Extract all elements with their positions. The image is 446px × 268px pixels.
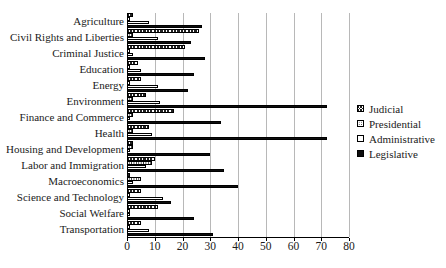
bar-judicial	[127, 29, 199, 32]
bar-presidential	[127, 177, 141, 180]
category-label: Labor and Immigration	[0, 159, 124, 171]
bar-legislative	[127, 105, 327, 108]
bar-administrative	[127, 53, 133, 56]
plot-area	[127, 13, 349, 237]
bar-judicial	[127, 125, 149, 128]
bar-administrative	[127, 213, 130, 216]
gridline	[238, 13, 239, 237]
bar-administrative	[127, 21, 149, 24]
bar-presidential	[127, 113, 133, 116]
bar-presidential	[127, 81, 130, 84]
administrative-swatch-icon	[357, 135, 364, 142]
bar-legislative	[127, 73, 194, 76]
category-label: Environment	[0, 95, 124, 107]
category-label: Social Welfare	[0, 207, 124, 219]
category-label: Transportation	[0, 223, 124, 235]
gridline	[349, 13, 350, 237]
x-tick-label: 60	[279, 240, 309, 252]
legislative-swatch-icon	[357, 150, 364, 157]
bar-presidential	[127, 49, 130, 52]
bar-administrative	[127, 101, 160, 104]
legend-label-legislative: Legislative	[369, 148, 418, 160]
bar-presidential	[127, 129, 133, 132]
legend-item-judicial: Judicial	[357, 101, 435, 116]
legend-label-judicial: Judicial	[369, 103, 403, 115]
bar-presidential	[127, 145, 133, 148]
bar-legislative	[127, 185, 238, 188]
x-tick-label: 80	[334, 240, 364, 252]
bar-chart-figure: AgricultureCivil Rights and LibertiesCri…	[0, 0, 446, 268]
bar-presidential	[127, 33, 133, 36]
x-tick-label: 0	[112, 240, 142, 252]
bar-legislative	[127, 121, 221, 124]
bar-administrative	[127, 181, 133, 184]
bar-judicial	[127, 157, 155, 160]
bar-judicial	[127, 173, 130, 176]
bar-legislative	[127, 201, 171, 204]
bar-judicial	[127, 189, 141, 192]
bar-judicial	[127, 93, 146, 96]
bar-administrative	[127, 69, 141, 72]
bar-legislative	[127, 41, 191, 44]
gridline	[210, 13, 211, 237]
bar-administrative	[127, 149, 130, 152]
bar-presidential	[127, 65, 130, 68]
category-label: Energy	[0, 79, 124, 91]
bar-legislative	[127, 137, 327, 140]
bar-judicial	[127, 141, 133, 144]
bar-judicial	[127, 221, 141, 224]
presidential-swatch-icon	[357, 120, 364, 127]
x-tick-label: 50	[251, 240, 281, 252]
gridline	[266, 13, 267, 237]
bar-legislative	[127, 217, 194, 220]
bar-presidential	[127, 209, 130, 212]
category-label: Criminal Justice	[0, 47, 124, 59]
bar-legislative	[127, 153, 210, 156]
category-label: Agriculture	[0, 15, 124, 27]
bar-presidential	[127, 225, 130, 228]
category-label: Civil Rights and Liberties	[0, 31, 124, 43]
category-label: Macroeconomics	[0, 175, 124, 187]
bar-administrative	[127, 229, 149, 232]
bar-judicial	[127, 109, 174, 112]
bar-administrative	[127, 37, 158, 40]
category-label: Education	[0, 63, 124, 75]
x-tick-label: 30	[195, 240, 225, 252]
bar-judicial	[127, 13, 133, 16]
bar-presidential	[127, 161, 152, 164]
bar-administrative	[127, 165, 146, 168]
bar-administrative	[127, 197, 163, 200]
bar-legislative	[127, 57, 205, 60]
legend-label-administrative: Administrative	[369, 133, 435, 145]
x-tick-label: 20	[168, 240, 198, 252]
legend: Judicial Presidential Administrative Leg…	[357, 101, 435, 161]
category-label: Health	[0, 127, 124, 139]
bar-presidential	[127, 17, 130, 20]
judicial-swatch-icon	[357, 105, 364, 112]
bar-administrative	[127, 133, 152, 136]
bar-legislative	[127, 89, 188, 92]
category-label: Housing and Development	[0, 143, 124, 155]
gridline	[321, 13, 322, 237]
bar-legislative	[127, 233, 213, 236]
legend-item-legislative: Legislative	[357, 146, 435, 161]
bar-presidential	[127, 193, 130, 196]
bar-legislative	[127, 25, 202, 28]
category-label: Science and Technology	[0, 191, 124, 203]
bar-legislative	[127, 169, 224, 172]
x-tick-label: 40	[223, 240, 253, 252]
legend-label-presidential: Presidential	[369, 118, 421, 130]
bar-judicial	[127, 61, 138, 64]
bar-judicial	[127, 77, 141, 80]
bar-presidential	[127, 97, 133, 100]
gridline	[294, 13, 295, 237]
bar-administrative	[127, 117, 130, 120]
category-label: Finance and Commerce	[0, 111, 124, 123]
x-tick-label: 70	[306, 240, 336, 252]
legend-item-administrative: Administrative	[357, 131, 435, 146]
x-tick-label: 10	[140, 240, 170, 252]
legend-item-presidential: Presidential	[357, 116, 435, 131]
bar-judicial	[127, 205, 158, 208]
bar-administrative	[127, 85, 158, 88]
bar-judicial	[127, 45, 185, 48]
